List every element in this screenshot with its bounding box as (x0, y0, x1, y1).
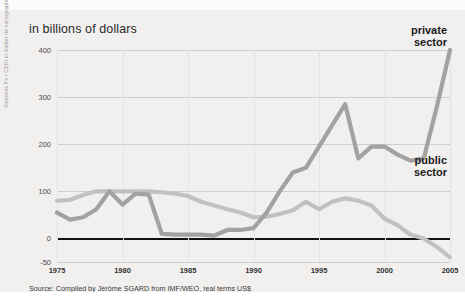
x-tick-label: 1975 (49, 266, 66, 275)
chart-card: in billions of dollars 4003002001000-50 … (20, 10, 465, 308)
public-sector-annotation-line2: sector (414, 166, 447, 178)
chart-title: in billions of dollars (29, 22, 137, 36)
private-sector-annotation: private sector (411, 24, 447, 48)
y-tick-label: 300 (38, 93, 51, 102)
x-tick-label: 1990 (245, 266, 262, 275)
x-tick-label: 1980 (114, 266, 131, 275)
x-tick-label: 2000 (376, 266, 393, 275)
y-tick-label: 0 (47, 234, 51, 243)
series-lines (57, 50, 450, 262)
y-tick-label: 400 (38, 46, 51, 55)
private-sector-annotation-line2: sector (414, 36, 447, 48)
y-gridline (57, 262, 450, 263)
chart-figure: Sciences Po / CERI et Atelier de cartogr… (0, 0, 465, 308)
private-sector-annotation-line1: private (411, 24, 447, 36)
private-sector-line (57, 50, 450, 236)
public-sector-line (57, 191, 450, 257)
x-tick-label: 1995 (311, 266, 328, 275)
public-sector-annotation: public sector (414, 154, 447, 178)
publisher-credit: Sciences Po / CERI et Atelier de cartogr… (0, 0, 12, 108)
cropped-header-strip (0, 0, 465, 10)
y-tick-label: 200 (38, 140, 51, 149)
plot-area: 4003002001000-50 19751980198519901995200… (57, 50, 450, 262)
bottom-margin (0, 292, 465, 308)
x-tick-label: 1985 (180, 266, 197, 275)
x-gridline (450, 50, 451, 262)
x-tick-label: 2005 (442, 266, 459, 275)
y-tick-label: 100 (38, 187, 51, 196)
public-sector-annotation-line1: public (415, 154, 447, 166)
